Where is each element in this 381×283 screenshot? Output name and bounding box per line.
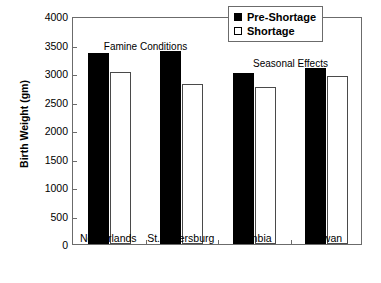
y-axis-tick-label: 0 <box>32 240 68 251</box>
y-axis-tick-label: 2000 <box>32 126 68 137</box>
y-axis-tick-label: 2500 <box>32 97 68 108</box>
bar-pre-shortage-st-petersburg <box>160 51 181 244</box>
annotation-famine-conditions: Famine Conditions <box>104 41 187 52</box>
y-axis-tick-label: 3000 <box>32 69 68 80</box>
y-axis-title: Birth Weight (gm) <box>18 49 30 199</box>
y-axis-tick-mark <box>73 132 77 133</box>
x-axis-tick-mark <box>291 240 292 244</box>
x-axis-tick-mark <box>218 240 219 244</box>
legend-item-pre-shortage: Pre-Shortage <box>234 10 316 24</box>
y-axis-tick-label: 1000 <box>32 183 68 194</box>
x-axis-label-st-petersburg: St. Petersburg <box>147 232 214 244</box>
y-axis-tick-mark <box>73 218 77 219</box>
filled-square-icon <box>234 13 242 21</box>
y-axis-tick-mark <box>73 47 77 48</box>
bar-chart-figure: Birth Weight (gm) 0500100015002000250030… <box>0 0 381 283</box>
y-axis-tick-label: 1500 <box>32 154 68 165</box>
bar-shortage-taiwan <box>327 76 348 244</box>
plot-area: Famine ConditionsSeasonal Effects <box>72 17 362 245</box>
bar-pre-shortage-netherlands <box>88 53 109 244</box>
bar-pre-shortage-taiwan <box>305 68 326 244</box>
y-axis-tick-mark <box>73 161 77 162</box>
y-axis-tick-mark <box>73 104 77 105</box>
bar-shortage-netherlands <box>110 72 131 244</box>
annotation-seasonal-effects: Seasonal Effects <box>253 58 328 69</box>
x-axis-label-gambia: Gambia <box>235 232 272 244</box>
legend-item-shortage: Shortage <box>234 24 316 38</box>
chart-legend: Pre-ShortageShortage <box>228 6 323 42</box>
bar-shortage-st-petersburg <box>182 84 203 244</box>
y-axis-tick-mark <box>73 75 77 76</box>
y-axis-tick-label: 500 <box>32 211 68 222</box>
legend-item-label: Pre-Shortage <box>247 12 316 23</box>
legend-item-label: Shortage <box>247 26 295 37</box>
y-axis-tick-label: 3500 <box>32 40 68 51</box>
y-axis-tick-label: 4000 <box>32 12 68 23</box>
bar-pre-shortage-gambia <box>233 73 254 244</box>
bar-shortage-gambia <box>255 87 276 244</box>
x-axis-label-netherlands: Netherlands <box>80 232 137 244</box>
x-axis-label-taiwan: Taiwan <box>309 232 342 244</box>
empty-square-icon <box>234 27 242 35</box>
y-axis-tick-mark <box>73 189 77 190</box>
